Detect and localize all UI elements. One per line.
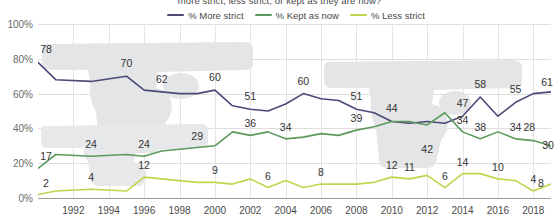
x-axis-tick-2008: 2008 <box>345 205 367 216</box>
x-axis-tick-1998: 1998 <box>168 205 190 216</box>
x-axis-tick-2018: 2018 <box>522 205 544 216</box>
legend-item-more-strict[interactable]: % More strict <box>167 10 243 21</box>
legend-line-icon-kept-as-now <box>255 14 272 16</box>
legend-label-kept-as-now: % Kept as now <box>276 10 339 21</box>
y-axis-tick-80: 80% <box>13 53 33 64</box>
data-label: 6 <box>442 170 448 182</box>
data-label: 28 <box>523 121 535 133</box>
data-label: 34 <box>510 121 522 133</box>
legend-item-less-strict[interactable]: % Less strict <box>350 10 425 21</box>
x-axis-tick-2012: 2012 <box>416 205 438 216</box>
chart-legend: % More strict % Kept as now % Less stric… <box>163 6 429 24</box>
x-axis-tick-1996: 1996 <box>133 205 155 216</box>
legend-item-kept-as-now[interactable]: % Kept as now <box>255 10 339 21</box>
data-label: 60 <box>209 71 221 83</box>
data-label: 78 <box>40 43 52 55</box>
data-label: 12 <box>386 159 398 171</box>
data-label: 70 <box>121 57 133 69</box>
data-label: 24 <box>85 138 97 150</box>
data-label: 36 <box>244 117 256 129</box>
data-label: 51 <box>351 90 363 102</box>
line-less-strict <box>38 174 551 195</box>
x-axis-tick-2004: 2004 <box>275 205 297 216</box>
line-more-strict <box>38 62 551 123</box>
y-axis-tick-60: 60% <box>13 88 33 99</box>
data-label: 24 <box>138 138 150 150</box>
legend-line-icon-more-strict <box>167 14 184 16</box>
gridline-y-0 <box>38 198 551 199</box>
plot-area: 0%20%40%60%80%100% 199219941996199820002… <box>38 24 551 198</box>
gun-law-opinion-line-chart: more strict, less strict, or kept as the… <box>0 0 559 221</box>
data-label: 4 <box>88 171 94 183</box>
data-label: 39 <box>351 112 363 124</box>
y-axis-tick-0: 0% <box>19 193 33 204</box>
data-label: 2 <box>43 177 49 189</box>
legend-label-more-strict: % More strict <box>188 10 243 21</box>
y-axis-tick-20: 20% <box>13 158 33 169</box>
data-label: 4 <box>530 173 536 185</box>
data-label: 10 <box>492 161 504 173</box>
y-axis-tick-40: 40% <box>13 123 33 134</box>
data-label: 47 <box>457 97 469 109</box>
data-label: 14 <box>457 156 469 168</box>
x-axis-tick-1994: 1994 <box>98 205 120 216</box>
data-label: 11 <box>404 161 415 173</box>
legend-line-icon-less-strict <box>350 14 367 16</box>
data-label: 8 <box>538 177 544 189</box>
legend-label-less-strict: % Less strict <box>371 10 425 21</box>
data-label: 44 <box>386 102 398 114</box>
data-label: 51 <box>244 90 256 102</box>
data-label: 60 <box>298 75 310 87</box>
x-axis-tick-2014: 2014 <box>451 205 473 216</box>
data-label: 55 <box>510 83 522 95</box>
data-label: 12 <box>138 159 150 171</box>
x-axis-tick-2002: 2002 <box>239 205 261 216</box>
data-label: 30 <box>542 139 554 151</box>
x-axis-tick-2006: 2006 <box>310 205 332 216</box>
x-axis-tick-1992: 1992 <box>62 205 84 216</box>
data-label: 8 <box>318 166 324 178</box>
data-label: 62 <box>156 73 168 85</box>
data-label: 58 <box>474 78 486 90</box>
data-label: 38 <box>474 121 486 133</box>
x-axis-tick-2016: 2016 <box>487 205 509 216</box>
data-label: 34 <box>280 121 292 133</box>
data-label: 42 <box>421 143 433 155</box>
data-label: 61 <box>541 76 553 88</box>
x-axis-tick-2010: 2010 <box>381 205 403 216</box>
y-axis-tick-100: 100% <box>7 19 33 30</box>
data-label: 9 <box>212 164 218 176</box>
x-axis-tick-2000: 2000 <box>204 205 226 216</box>
data-label: 17 <box>40 150 52 162</box>
series-lines <box>38 24 551 198</box>
data-label: 34 <box>457 114 469 126</box>
data-label: 29 <box>191 130 203 142</box>
data-label: 6 <box>265 170 271 182</box>
